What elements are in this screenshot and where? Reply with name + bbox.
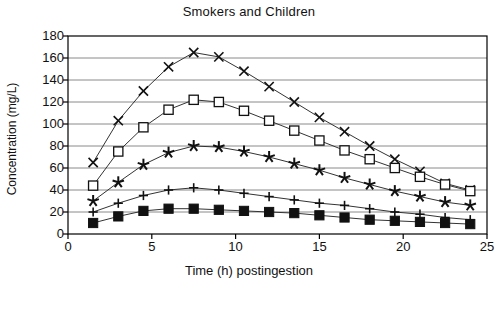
data-point-open-square (390, 163, 399, 172)
data-point-open-square (290, 126, 299, 135)
series-filled-square (89, 204, 475, 229)
data-point-open-square (441, 180, 450, 189)
data-point-open-square (239, 106, 248, 115)
data-point-star (339, 172, 350, 183)
data-point-open-square (189, 95, 198, 104)
data-point-plus (340, 201, 349, 210)
data-point-x (340, 127, 349, 136)
data-point-x (239, 67, 248, 76)
x-axis-label: Time (h) postingestion (0, 263, 498, 278)
data-point-plus (89, 207, 98, 216)
data-point-open-square (89, 181, 98, 190)
data-point-filled-square (365, 215, 374, 224)
data-point-open-square (164, 105, 173, 114)
data-point-open-square (214, 97, 223, 106)
data-point-star (364, 179, 375, 190)
data-point-filled-square (466, 220, 475, 229)
data-point-filled-square (390, 216, 399, 225)
data-point-plus (139, 191, 148, 200)
data-point-plus (265, 192, 274, 201)
data-point-open-square (365, 155, 374, 164)
x-tick-label: 15 (299, 239, 339, 254)
x-tick-label: 5 (132, 239, 172, 254)
data-point-plus (290, 195, 299, 204)
data-point-star (289, 158, 300, 169)
y-tick-label: 180 (18, 29, 64, 42)
data-point-x (139, 86, 148, 95)
y-tick-label: 100 (18, 117, 64, 130)
x-tick-label: 0 (48, 239, 88, 254)
data-point-filled-square (290, 209, 299, 218)
data-point-plus (390, 207, 399, 216)
data-point-star (389, 185, 400, 196)
series-line (93, 188, 470, 220)
data-point-x (89, 158, 98, 167)
data-point-filled-square (415, 217, 424, 226)
data-point-plus (114, 199, 123, 208)
data-point-open-square (265, 116, 274, 125)
series-open-square (89, 95, 475, 196)
data-point-open-square (315, 136, 324, 145)
data-point-star (263, 151, 274, 162)
series-line (93, 209, 470, 224)
data-point-filled-square (114, 212, 123, 221)
data-point-star (238, 146, 249, 157)
data-point-x (189, 48, 198, 57)
data-point-star (439, 196, 450, 207)
data-point-plus (214, 185, 223, 194)
data-point-filled-square (441, 218, 450, 227)
chart-container: Smokers and Children Concentration (mg/L… (0, 0, 498, 311)
data-point-star (314, 164, 325, 175)
data-point-x (164, 62, 173, 71)
data-point-star (163, 147, 174, 158)
data-point-filled-square (139, 206, 148, 215)
data-point-star (87, 195, 98, 206)
data-point-open-square (340, 146, 349, 155)
data-point-open-square (114, 147, 123, 156)
data-point-filled-square (164, 204, 173, 213)
x-tick-label: 20 (383, 239, 423, 254)
data-point-x (214, 52, 223, 61)
data-point-x (315, 113, 324, 122)
y-tick-label: 140 (18, 73, 64, 86)
y-tick-label: 160 (18, 51, 64, 64)
data-point-plus (164, 185, 173, 194)
data-point-x (265, 82, 274, 91)
y-tick-label: 120 (18, 95, 64, 108)
data-point-filled-square (214, 205, 223, 214)
data-point-star (188, 140, 199, 151)
data-point-star (465, 199, 476, 210)
data-point-filled-square (89, 218, 98, 227)
data-point-open-square (466, 187, 475, 196)
data-point-star (213, 141, 224, 152)
data-point-filled-square (239, 206, 248, 215)
y-tick-label: 40 (18, 183, 64, 196)
data-point-filled-square (189, 204, 198, 213)
y-tick-label: 60 (18, 161, 64, 174)
y-tick-label: 80 (18, 139, 64, 152)
x-tick-label: 25 (467, 239, 498, 254)
x-tick-label: 10 (216, 239, 256, 254)
data-point-star (414, 191, 425, 202)
data-point-filled-square (340, 213, 349, 222)
chart-title: Smokers and Children (0, 4, 498, 19)
data-point-filled-square (265, 207, 274, 216)
data-point-open-square (415, 172, 424, 181)
plot-frame (68, 36, 487, 234)
series-line (93, 100, 470, 191)
data-point-x (390, 155, 399, 164)
data-point-plus (189, 183, 198, 192)
data-point-filled-square (315, 211, 324, 220)
series-line (93, 53, 470, 191)
y-tick-label: 20 (18, 205, 64, 218)
series-line (93, 146, 470, 205)
data-point-plus (315, 199, 324, 208)
data-point-open-square (139, 123, 148, 132)
